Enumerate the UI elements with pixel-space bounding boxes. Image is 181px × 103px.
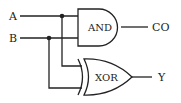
xor-extra-arc [78, 59, 83, 95]
output-label-co: CO [152, 21, 169, 34]
junction-a [60, 14, 65, 19]
input-label-b: B [9, 32, 17, 45]
output-label-y: Y [157, 71, 166, 84]
xor-gate-label: XOR [95, 72, 118, 83]
wire-b-to-xor [49, 38, 82, 88]
wire-a-to-xor [62, 16, 82, 66]
half-adder-diagram: A B AND CO XOR Y [0, 0, 181, 103]
junction-b [47, 36, 52, 41]
and-gate-label: AND [87, 22, 112, 33]
input-label-a: A [8, 10, 18, 23]
